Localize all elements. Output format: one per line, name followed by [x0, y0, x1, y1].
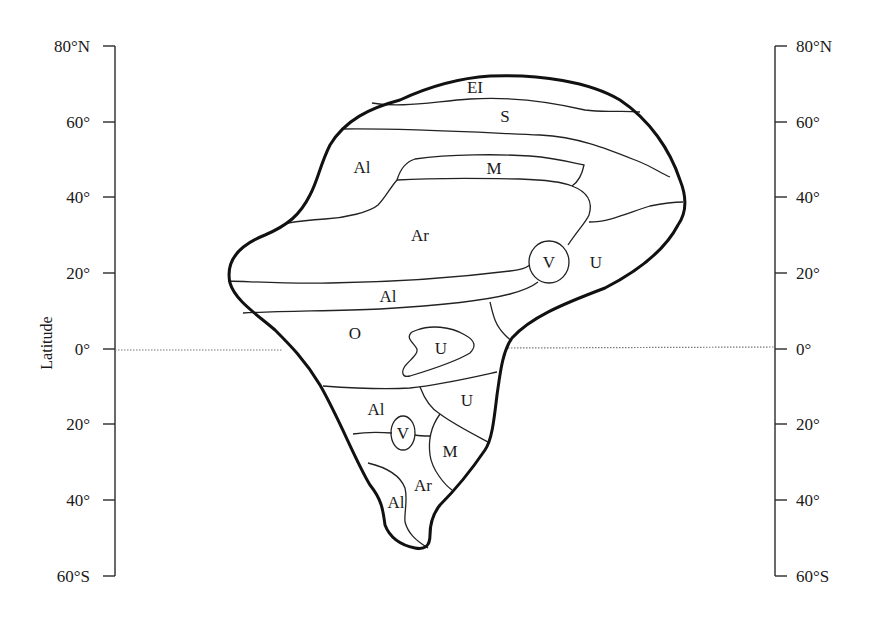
- region-label-v-south: V: [397, 424, 410, 443]
- region-label-s: S: [500, 107, 509, 126]
- left-tick-label: 80°N: [54, 37, 90, 56]
- left-tick-label: 60°: [66, 113, 90, 132]
- left-tick-label: 60°S: [57, 567, 90, 586]
- continent-zones-diagram: 80°N 60° 40° 20° 0° 20° 40° 60°S Latitud…: [0, 0, 882, 622]
- zone-boundaries: [228, 98, 683, 548]
- left-tick-label: 0°: [75, 340, 90, 359]
- right-tick-label: 20°: [796, 264, 820, 283]
- region-label-ar-north: Ar: [411, 226, 429, 245]
- region-label-v-north: V: [543, 253, 556, 272]
- left-tick-label: 40°: [66, 491, 90, 510]
- right-tick-label: 0°: [796, 340, 811, 359]
- left-tick-label: 20°: [66, 264, 90, 283]
- region-label-ei: EI: [467, 78, 483, 97]
- right-tick-label: 40°: [796, 491, 820, 510]
- right-latitude-axis: 80°N 60° 40° 20° 0° 20° 40° 60°S: [775, 37, 832, 586]
- region-label-al-north: Al: [354, 158, 371, 177]
- right-tick-label: 80°N: [796, 37, 832, 56]
- left-latitude-axis: 80°N 60° 40° 20° 0° 20° 40° 60°S Latitud…: [38, 37, 115, 586]
- continent-outline: [229, 76, 685, 549]
- region-labels: EI S Al M Ar V U Al O U U Al V M Ar Al: [349, 78, 602, 512]
- region-label-m-north: M: [486, 159, 501, 178]
- right-tick-label: 60°: [796, 113, 820, 132]
- latitude-axis-title: Latitude: [38, 316, 55, 369]
- region-label-o: O: [349, 324, 361, 343]
- region-label-al-tip: Al: [388, 493, 405, 512]
- right-tick-label: 60°S: [796, 567, 829, 586]
- region-label-m-south: M: [442, 442, 457, 461]
- left-tick-label: 40°: [66, 188, 90, 207]
- right-tick-label: 40°: [796, 188, 820, 207]
- region-label-al-tropical: Al: [380, 287, 397, 306]
- region-label-u-northeast: U: [590, 253, 602, 272]
- region-label-u-island: U: [435, 339, 447, 358]
- left-tick-label: 20°: [66, 415, 90, 434]
- region-label-ar-south: Ar: [414, 476, 432, 495]
- region-label-al-south: Al: [368, 400, 385, 419]
- right-tick-label: 20°: [796, 415, 820, 434]
- region-label-u-southeast: U: [461, 391, 473, 410]
